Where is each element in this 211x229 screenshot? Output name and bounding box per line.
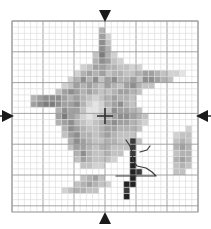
heatmap-cell — [136, 89, 142, 95]
heatmap-cell — [111, 58, 117, 64]
heatmap-cell — [93, 52, 99, 58]
heatmap-cell — [93, 76, 99, 82]
heatmap-cell — [155, 76, 161, 82]
heatmap-cell — [80, 181, 86, 187]
heatmap-cell — [173, 70, 179, 76]
heatmap-cell — [179, 138, 185, 144]
heatmap-cell — [105, 64, 111, 70]
heatmap-cell — [55, 89, 61, 95]
heatmap-cell — [62, 89, 68, 95]
heatmap-cell — [179, 169, 185, 175]
heatmap-cell — [130, 76, 136, 82]
heatmap-cell — [74, 95, 80, 101]
heatmap-cell — [74, 138, 80, 144]
heatmap-cell — [93, 64, 99, 70]
heatmap-cell — [111, 120, 117, 126]
heatmap-cell — [86, 132, 92, 138]
heatmap-cell — [55, 101, 61, 107]
heatmap-cell — [74, 83, 80, 89]
heatmap-cell — [124, 70, 130, 76]
heatmap-cell — [148, 70, 154, 76]
heatmap-cell — [86, 163, 92, 169]
heatmap-cell — [68, 144, 74, 150]
heatmap-cell — [93, 175, 99, 181]
heatmap-cell — [68, 113, 74, 119]
heatmap-cell — [99, 64, 105, 70]
heatmap-cell — [186, 157, 192, 163]
heatmap-cell — [117, 64, 123, 70]
heatmap-cell — [99, 27, 105, 33]
heatmap-cell — [68, 126, 74, 132]
heatmap-cell — [68, 83, 74, 89]
heatmap-cell — [93, 126, 99, 132]
heatmap-cell — [62, 126, 68, 132]
heatmap-cell — [179, 144, 185, 150]
heatmap-cell — [136, 169, 142, 175]
heatmap-cell — [105, 181, 111, 187]
heatmap-cell — [62, 132, 68, 138]
marker-bottom-icon[interactable] — [99, 212, 111, 224]
heatmap-cell — [55, 107, 61, 113]
heatmap-cell — [117, 95, 123, 101]
heatmap-cell — [173, 157, 179, 163]
heatmap-cell — [136, 107, 142, 113]
heatmap-cell — [105, 58, 111, 64]
heatmap-cell — [80, 101, 86, 107]
marker-top-icon[interactable] — [99, 10, 111, 22]
heatmap-cell — [142, 70, 148, 76]
heatmap-cell — [105, 126, 111, 132]
heatmap-cell — [111, 150, 117, 156]
heatmap-cell — [86, 70, 92, 76]
heatmap-cell — [111, 70, 117, 76]
heatmap-cell — [93, 150, 99, 156]
heatmap-cell — [80, 64, 86, 70]
heatmap-cell — [186, 144, 192, 150]
heatmap-cell — [74, 107, 80, 113]
heatmap-cell — [111, 157, 117, 163]
heatmap-cell — [31, 101, 37, 107]
heatmap-cell — [43, 101, 49, 107]
heatmap-cell — [117, 132, 123, 138]
heatmap-cell — [55, 113, 61, 119]
heatmap-cell — [105, 157, 111, 163]
heatmap-cell — [179, 150, 185, 156]
heatmap-cell — [86, 89, 92, 95]
heatmap-cell — [105, 46, 111, 52]
heatmap-cell — [117, 107, 123, 113]
heatmap-cell — [86, 126, 92, 132]
heatmap-cell — [86, 101, 92, 107]
heatmap-cell — [142, 76, 148, 82]
heatmap-cell — [124, 76, 130, 82]
heatmap-cell — [99, 107, 105, 113]
heatmap-cell — [99, 89, 105, 95]
heatmap-cell — [86, 181, 92, 187]
heatmap-cell — [80, 70, 86, 76]
heatmap-cell — [80, 150, 86, 156]
heatmap-cell — [99, 126, 105, 132]
heatmap-cell — [49, 95, 55, 101]
heatmap-cell — [186, 138, 192, 144]
heatmap-cell — [74, 120, 80, 126]
heatmap-cell — [124, 107, 130, 113]
heatmap-cell — [130, 95, 136, 101]
heatmap-cell — [148, 76, 154, 82]
heatmap-cell — [105, 120, 111, 126]
heatmap-cell — [124, 120, 130, 126]
heatmap-cell — [62, 83, 68, 89]
heatmap-cell — [86, 95, 92, 101]
heatmap-cell — [142, 83, 148, 89]
heatmap-cell — [105, 52, 111, 58]
heatmap-cell — [111, 132, 117, 138]
heatmap-cell — [80, 89, 86, 95]
heatmap-cell — [99, 132, 105, 138]
heatmap-cell — [117, 113, 123, 119]
heatmap-cell — [62, 187, 68, 193]
heatmap-cell — [93, 83, 99, 89]
heatmap-cell — [179, 163, 185, 169]
heatmap-cell — [130, 181, 136, 187]
heatmap-cell — [117, 144, 123, 150]
heatmap-cell — [93, 163, 99, 169]
heatmap-cell — [173, 163, 179, 169]
heatmap-cell — [99, 39, 105, 45]
heatmap-cell — [136, 64, 142, 70]
